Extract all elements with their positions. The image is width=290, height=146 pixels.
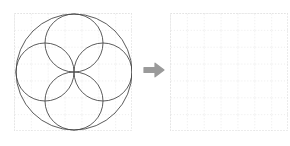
transformation-arrow <box>142 58 166 82</box>
target-panel <box>170 13 288 131</box>
arrow-right-icon <box>142 58 166 82</box>
figure-canvas <box>0 0 290 146</box>
target-panel-svg <box>170 13 288 131</box>
target-grid <box>170 13 288 131</box>
source-panel-svg <box>14 13 132 131</box>
source-panel <box>14 13 132 131</box>
